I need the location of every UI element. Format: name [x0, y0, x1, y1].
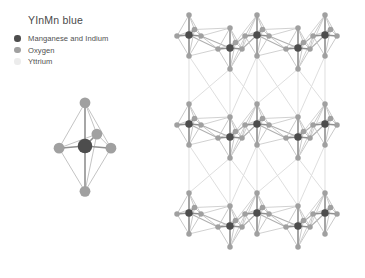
- bond: [201, 214, 218, 227]
- metal-atom: [294, 222, 301, 229]
- bond: [325, 214, 337, 234]
- bond: [269, 28, 298, 36]
- bond: [230, 158, 257, 193]
- bond: [298, 28, 304, 43]
- bond: [269, 36, 286, 49]
- bond: [230, 132, 236, 159]
- bond: [242, 15, 257, 49]
- bond: [245, 104, 257, 125]
- bond: [218, 138, 230, 158]
- oxygen-atom: [334, 122, 340, 128]
- bond: [230, 206, 236, 221]
- bond: [201, 117, 230, 125]
- oxygen-atom: [192, 27, 198, 33]
- bond: [298, 56, 325, 117]
- oxygen-atom: [295, 114, 301, 120]
- oxygen-atom: [254, 142, 260, 148]
- bond: [257, 30, 263, 57]
- bond: [189, 158, 230, 193]
- bond: [230, 36, 245, 69]
- oxygen-atom: [215, 46, 221, 52]
- oxygen-atom: [174, 33, 180, 39]
- bond: [245, 36, 257, 56]
- oxygen-atom: [233, 40, 239, 46]
- bond: [331, 119, 338, 126]
- bond: [263, 208, 270, 215]
- bond: [242, 104, 257, 138]
- bond: [310, 35, 325, 49]
- bond: [257, 35, 269, 36]
- bond: [242, 35, 257, 49]
- oxygen-atom: [307, 46, 313, 52]
- oxygen-atom: [186, 142, 192, 148]
- bond: [236, 43, 243, 50]
- oxygen-atom: [283, 135, 289, 141]
- oxygen-atom: [227, 203, 233, 209]
- bond: [218, 132, 236, 139]
- oxygen-atom: [198, 33, 204, 39]
- bond: [325, 119, 331, 125]
- bond: [218, 43, 236, 50]
- bond: [189, 138, 218, 145]
- bond: [325, 213, 337, 214]
- bond: [325, 104, 331, 119]
- bond: [257, 119, 263, 125]
- bond: [85, 134, 97, 146]
- oxygen-atom: [192, 116, 198, 122]
- bond: [325, 15, 337, 36]
- bond: [230, 117, 236, 132]
- oxygen-atom: [295, 155, 301, 161]
- bond: [230, 206, 242, 227]
- bond: [286, 221, 304, 228]
- bond: [325, 193, 337, 214]
- bond: [230, 214, 245, 226]
- bond: [286, 49, 298, 69]
- bond: [189, 49, 218, 56]
- bond: [310, 124, 325, 138]
- oxygen-atom: [198, 211, 204, 217]
- legend-item-label: Manganese and Indium: [28, 33, 108, 44]
- oxygen-atom: [227, 114, 233, 120]
- bond: [59, 146, 85, 148]
- metal-atom: [294, 133, 301, 140]
- bond: [59, 134, 97, 148]
- oxygen-atom: [227, 155, 233, 161]
- oxygen-atom: [301, 129, 307, 135]
- bond: [189, 15, 201, 36]
- bond: [230, 221, 236, 248]
- bond: [189, 145, 230, 206]
- oxygen-atom: [283, 46, 289, 52]
- bond: [230, 125, 245, 158]
- metal-atom: [185, 209, 192, 216]
- bond: [331, 208, 338, 215]
- oxygen-atom: [227, 25, 233, 31]
- bond: [298, 36, 313, 48]
- bond: [257, 119, 263, 146]
- bond: [298, 221, 304, 248]
- oxygen-atom: [328, 205, 334, 211]
- bond: [189, 208, 195, 235]
- bond: [189, 124, 201, 125]
- bond: [201, 125, 218, 138]
- bond: [286, 117, 298, 138]
- bond: [298, 138, 310, 158]
- bond: [230, 125, 245, 137]
- bond: [298, 158, 325, 193]
- bond: [325, 208, 331, 235]
- legend-item-label: Yttrium: [28, 56, 52, 67]
- metal-atom: [321, 31, 328, 38]
- bond: [298, 226, 310, 227]
- legend-item-yttrium: Yttrium: [14, 56, 164, 67]
- bond: [325, 30, 331, 57]
- bond: [236, 15, 258, 43]
- bond: [313, 30, 331, 37]
- legend-marker-icon: [14, 47, 21, 54]
- bond: [269, 125, 286, 138]
- oxygen-atom: [227, 66, 233, 72]
- bond: [304, 132, 311, 139]
- bond: [325, 35, 337, 36]
- bond: [189, 36, 201, 56]
- bond: [230, 227, 242, 247]
- bond: [236, 221, 243, 228]
- bond: [298, 125, 313, 158]
